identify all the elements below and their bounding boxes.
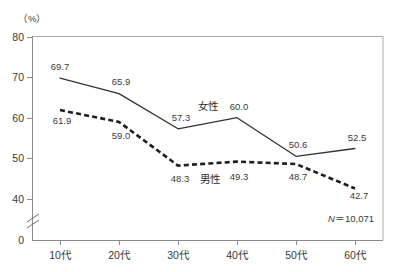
- data-label-female-10s: 69.7: [51, 61, 70, 72]
- line-chart: （%） 80 70 60 50 40 0 10代 20代 30代 40代 50代…: [0, 0, 402, 272]
- data-label-female-40s: 60.0: [230, 101, 249, 112]
- x-tick-label-40s: 40代: [226, 249, 249, 261]
- plot-frame: [32, 37, 383, 241]
- data-label-male-10s: 61.9: [53, 115, 72, 126]
- x-tick-label-20s: 20代: [108, 249, 131, 261]
- y-tick-label-80: 80: [12, 31, 24, 43]
- data-label-male-60s: 42.7: [350, 190, 369, 201]
- y-tick-label-70: 70: [12, 71, 24, 83]
- data-label-female-50s: 50.6: [289, 139, 308, 150]
- y-tick-label-60: 60: [12, 112, 24, 124]
- x-tick-label-60s: 60代: [344, 249, 367, 261]
- y-tick-label-0: 0: [18, 234, 24, 246]
- series-line-female: [60, 78, 355, 156]
- y-tick-label-50: 50: [12, 152, 24, 164]
- data-label-female-30s: 57.3: [172, 112, 191, 123]
- x-tick-label-50s: 50代: [285, 249, 308, 261]
- data-label-male-40s: 49.3: [230, 171, 249, 182]
- data-label-female-20s: 65.9: [112, 76, 131, 87]
- chart-canvas: （%） 80 70 60 50 40 0 10代 20代 30代 40代 50代…: [0, 0, 402, 272]
- data-label-male-20s: 59.0: [112, 130, 131, 141]
- series-label-male: 男性: [200, 173, 220, 185]
- x-tick-label-10s: 10代: [49, 249, 72, 261]
- sample-size-value: ＝10,071: [335, 213, 374, 224]
- data-label-male-30s: 48.3: [171, 173, 190, 184]
- x-tick-label-30s: 30代: [167, 249, 190, 261]
- y-axis-unit-label: （%）: [18, 13, 46, 24]
- y-tick-label-40: 40: [12, 193, 24, 205]
- data-label-female-60s: 52.5: [348, 132, 367, 143]
- series-label-female: 女性: [198, 100, 218, 112]
- sample-size-annotation: N＝10,071: [328, 213, 374, 224]
- data-label-male-50s: 48.7: [289, 171, 308, 182]
- y-tick-marks: [27, 38, 32, 200]
